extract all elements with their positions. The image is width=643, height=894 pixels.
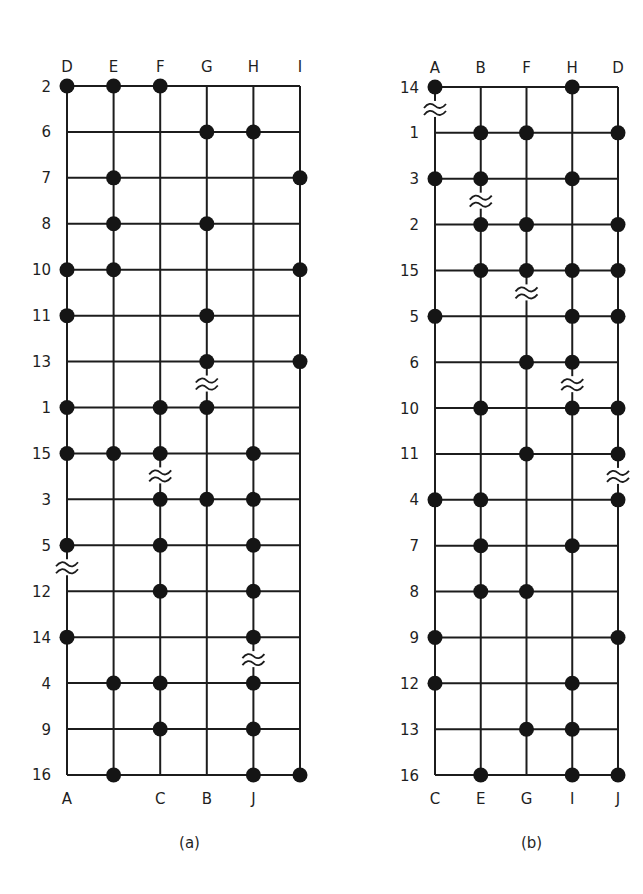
- column-label-top: D: [61, 58, 73, 76]
- node-dot: [611, 217, 626, 232]
- row-label: 8: [41, 215, 51, 233]
- break-mark-icon: [242, 651, 264, 667]
- node-dot: [519, 584, 534, 599]
- node-dot: [611, 768, 626, 783]
- row-label: 1: [409, 124, 419, 142]
- column-label-top: H: [567, 59, 578, 77]
- node-dot: [293, 767, 308, 782]
- node-dot: [473, 492, 488, 507]
- panel-a-grid: DEFGHIACBJ26781011131153512144916(a): [32, 58, 308, 852]
- node-dot: [106, 216, 121, 231]
- node-dot: [246, 722, 261, 737]
- node-dot: [60, 446, 75, 461]
- break-mark-icon: [424, 101, 446, 117]
- node-dot: [611, 630, 626, 645]
- node-dot: [428, 171, 443, 186]
- row-label: 13: [32, 353, 51, 371]
- node-dot: [473, 125, 488, 140]
- node-dot: [519, 722, 534, 737]
- node-dot: [473, 171, 488, 186]
- panel-b-grid: ABFHDCEGIJ14132155610114789121316(b): [400, 59, 629, 852]
- node-dot: [565, 768, 580, 783]
- node-dot: [565, 309, 580, 324]
- break-mark-icon: [516, 284, 538, 300]
- node-dot: [153, 722, 168, 737]
- row-label: 5: [41, 537, 51, 555]
- panel-caption: (a): [179, 834, 200, 852]
- node-dot: [428, 309, 443, 324]
- column-label-bottom: I: [570, 790, 574, 808]
- node-dot: [565, 80, 580, 95]
- column-label-top: B: [476, 59, 486, 77]
- node-dot: [106, 767, 121, 782]
- row-label: 7: [41, 169, 51, 187]
- row-label: 15: [32, 445, 51, 463]
- node-dot: [199, 400, 214, 415]
- node-dot: [60, 79, 75, 94]
- row-label: 12: [400, 675, 419, 693]
- column-label-top: F: [156, 58, 165, 76]
- node-dot: [60, 538, 75, 553]
- column-label-top: I: [298, 58, 302, 76]
- row-label: 14: [400, 79, 419, 97]
- node-dot: [565, 171, 580, 186]
- node-dot: [153, 538, 168, 553]
- node-dot: [519, 217, 534, 232]
- node-dot: [153, 79, 168, 94]
- node-dot: [199, 492, 214, 507]
- node-dot: [428, 676, 443, 691]
- node-dot: [473, 217, 488, 232]
- row-label: 4: [409, 491, 419, 509]
- row-label: 13: [400, 721, 419, 739]
- break-mark-icon: [607, 468, 629, 484]
- node-dot: [153, 492, 168, 507]
- node-dot: [611, 125, 626, 140]
- column-label-top: G: [201, 58, 213, 76]
- row-label: 2: [409, 216, 419, 234]
- node-dot: [246, 446, 261, 461]
- node-dot: [519, 263, 534, 278]
- node-dot: [199, 308, 214, 323]
- node-dot: [473, 263, 488, 278]
- node-dot: [106, 79, 121, 94]
- row-label: 2: [41, 78, 51, 96]
- node-dot: [565, 538, 580, 553]
- node-dot: [60, 630, 75, 645]
- node-dot: [106, 262, 121, 277]
- node-dot: [60, 400, 75, 415]
- row-label: 10: [400, 400, 419, 418]
- row-label: 8: [409, 583, 419, 601]
- node-dot: [519, 446, 534, 461]
- row-label: 15: [400, 262, 419, 280]
- break-mark-icon: [149, 467, 171, 483]
- node-dot: [246, 676, 261, 691]
- node-dot: [106, 676, 121, 691]
- row-label: 7: [409, 537, 419, 555]
- node-dot: [473, 584, 488, 599]
- column-label-top: E: [109, 58, 118, 76]
- node-dot: [106, 170, 121, 185]
- node-dot: [565, 676, 580, 691]
- node-dot: [60, 308, 75, 323]
- row-label: 1: [41, 399, 51, 417]
- panel-caption: (b): [521, 834, 542, 852]
- row-label: 5: [409, 308, 419, 326]
- column-label-bottom: J: [250, 790, 255, 808]
- node-dot: [153, 584, 168, 599]
- row-label: 6: [41, 123, 51, 141]
- node-dot: [565, 401, 580, 416]
- column-label-bottom: G: [521, 790, 533, 808]
- row-label: 11: [32, 307, 51, 325]
- node-dot: [519, 355, 534, 370]
- row-label: 16: [400, 767, 419, 785]
- node-dot: [199, 216, 214, 231]
- node-dot: [611, 401, 626, 416]
- node-dot: [293, 354, 308, 369]
- column-label-top: F: [522, 59, 531, 77]
- node-dot: [565, 263, 580, 278]
- row-label: 3: [409, 170, 419, 188]
- row-label: 6: [409, 354, 419, 372]
- column-label-top: A: [430, 59, 441, 77]
- row-label: 9: [41, 721, 51, 739]
- node-dot: [246, 767, 261, 782]
